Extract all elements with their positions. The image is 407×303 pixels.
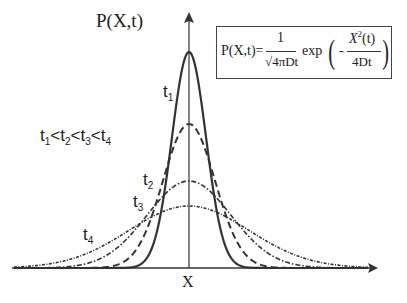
right-paren: ) [382, 33, 389, 71]
exp-denominator: 4Dt [352, 54, 372, 70]
curve-label-t4: t4 [83, 225, 93, 246]
fraction-bar [266, 51, 296, 52]
formula-exp: exp [302, 43, 322, 59]
formula-box: P(X,t)= 1 √4πDt exp ( - X2(t) 4Dt ) [216, 26, 392, 79]
diffusion-diagram: P(X,t) X t1<t2<t3<t4 t1 t2 t3 t4 P(X,t)=… [0, 0, 407, 303]
curve-label-t3: t3 [133, 192, 143, 213]
curve-label-t2: t2 [143, 170, 153, 191]
exp-numerator: X2(t) [349, 29, 375, 47]
curve-t1 [14, 52, 368, 268]
y-axis-label: P(X,t) [96, 10, 143, 32]
curve-label-t1: t1 [163, 82, 173, 103]
formula-lhs: P(X,t)= [221, 43, 264, 59]
curve-t4 [14, 206, 368, 267]
left-paren: ( [328, 33, 335, 71]
formula-numerator: 1 [277, 30, 284, 46]
exp-fraction-bar [347, 51, 381, 52]
formula-denominator: √4πDt [265, 54, 298, 70]
formula-minus: - [339, 43, 344, 59]
curve-t3 [14, 181, 368, 268]
time-ordering-label: t1<t2<t3<t4 [40, 126, 111, 147]
x-axis-label: X [182, 273, 194, 291]
